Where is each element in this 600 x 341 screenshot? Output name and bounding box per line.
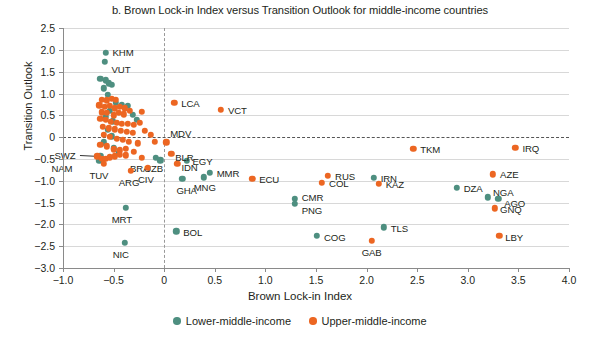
point-label: CIV: [138, 174, 154, 185]
legend-item-lower-middle-income[interactable]: Lower-middle-income: [173, 315, 291, 327]
scatter-point: [512, 145, 518, 151]
legend-label: Upper-middle-income: [322, 315, 427, 327]
point-label: IRQ: [522, 143, 539, 154]
point-label: MNG: [194, 182, 216, 193]
scatter-point: [101, 59, 107, 65]
scatter-point: [492, 205, 498, 211]
x-tick-mark: [265, 268, 266, 272]
x-tick-mark: [417, 268, 418, 272]
scatter-point: [368, 238, 374, 244]
point-label: AZE: [500, 169, 518, 180]
y-tick-mark: [59, 268, 63, 269]
y-tick-label: 1.0: [40, 88, 55, 100]
x-axis-label: Brown Lock-in Index: [0, 290, 600, 302]
scatter-point: [168, 150, 174, 156]
point-label: MRT: [112, 214, 132, 225]
zero-reference-line-horizontal: [63, 137, 569, 138]
plot-area: KHMVUTSWZNAMUZBEGYMMRMNGGHACMRPNGIRNDZAN…: [63, 28, 569, 268]
x-tick-mark: [569, 268, 570, 272]
scatter-point: [139, 109, 145, 115]
x-tick-mark: [114, 268, 115, 272]
scatter-point: [100, 161, 106, 167]
scatter-point: [490, 171, 496, 177]
scatter-point: [139, 155, 145, 161]
y-tick-label: 2.0: [40, 44, 55, 56]
y-tick-label: 1.5: [40, 66, 55, 78]
point-label: COL: [329, 178, 348, 189]
scatter-point: [108, 81, 114, 87]
x-tick-label: 2.5: [410, 274, 425, 286]
x-tick-label: −0.5: [103, 274, 124, 286]
legend-marker-icon: [309, 317, 317, 325]
scatter-point: [106, 134, 112, 140]
y-tick-label: −2.5: [34, 240, 55, 252]
y-tick-mark: [59, 28, 63, 29]
y-tick-label: 2.5: [40, 22, 55, 34]
scatter-point: [126, 138, 132, 144]
point-label: TKM: [420, 144, 440, 155]
point-label: KAZ: [386, 179, 404, 190]
chart-legend: Lower-middle-incomeUpper-middle-income: [0, 315, 600, 327]
scatter-point: [200, 174, 206, 180]
point-label: CMR: [302, 192, 324, 203]
x-tick-label: 2.0: [359, 274, 374, 286]
x-tick-mark: [518, 268, 519, 272]
scatter-point: [137, 120, 143, 126]
point-label: TLS: [391, 223, 408, 234]
point-label: ECU: [259, 174, 279, 185]
zero-reference-line-vertical: [164, 28, 165, 268]
y-tick-label: −2.0: [34, 218, 55, 230]
scatter-point: [171, 100, 177, 106]
scatter-point: [103, 143, 109, 149]
scatter-point: [218, 107, 224, 113]
scatter-point: [130, 129, 136, 135]
y-tick-mark: [59, 115, 63, 116]
scatter-point: [174, 161, 180, 167]
point-label: IDN: [181, 162, 197, 173]
x-tick-mark: [367, 268, 368, 272]
y-tick-mark: [59, 181, 63, 182]
x-tick-mark: [63, 268, 64, 272]
point-label: LCA: [181, 98, 199, 109]
point-label: GNQ: [500, 204, 522, 215]
x-tick-mark: [215, 268, 216, 272]
point-label: VCT: [228, 105, 247, 116]
y-tick-mark: [59, 94, 63, 95]
gridline: [63, 50, 569, 51]
scatter-point: [314, 233, 320, 239]
point-label: GHA: [176, 185, 197, 196]
gridline: [63, 94, 569, 95]
point-label: SWZ: [54, 150, 75, 161]
gridline: [63, 28, 569, 29]
scatter-point: [163, 139, 169, 145]
y-tick-label: 0.5: [40, 109, 55, 121]
legend-marker-icon: [173, 317, 181, 325]
y-tick-label: −3.0: [34, 262, 55, 274]
x-tick-label: 1.0: [258, 274, 273, 286]
y-tick-label: −0.5: [34, 153, 55, 165]
point-label: TUV: [90, 170, 109, 181]
y-tick-mark: [59, 50, 63, 51]
x-tick-label: 1.5: [309, 274, 324, 286]
scatter-point: [122, 205, 128, 211]
x-tick-label: 4.0: [562, 274, 577, 286]
legend-item-upper-middle-income[interactable]: Upper-middle-income: [309, 315, 427, 327]
scatter-point: [206, 170, 212, 176]
y-tick-label: −1.0: [34, 175, 55, 187]
scatter-point: [495, 196, 501, 202]
chart-title: b. Brown Lock-in Index versus Transition…: [0, 4, 600, 16]
y-tick-label: 0: [49, 131, 55, 143]
scatter-point: [496, 232, 502, 238]
y-tick-mark: [59, 72, 63, 73]
y-tick-mark: [59, 246, 63, 247]
point-label: ARG: [119, 177, 140, 188]
y-axis-line: [63, 28, 64, 268]
scatter-point: [381, 224, 387, 230]
scatter-point: [485, 194, 491, 200]
point-label: GAB: [362, 247, 382, 258]
point-label: NIC: [113, 249, 129, 260]
point-label: LBY: [505, 232, 523, 243]
scatter-point: [453, 185, 459, 191]
point-label: VUT: [112, 64, 131, 75]
legend-label: Lower-middle-income: [186, 315, 291, 327]
